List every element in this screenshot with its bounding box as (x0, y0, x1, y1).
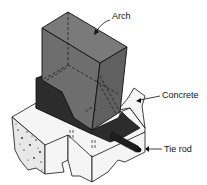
arch-footing-diagram: Arch Concrete Tie rod (0, 0, 207, 185)
label-arch: Arch (112, 11, 131, 21)
label-concrete: Concrete (162, 90, 199, 100)
label-tie-rod: Tie rod (164, 144, 192, 154)
